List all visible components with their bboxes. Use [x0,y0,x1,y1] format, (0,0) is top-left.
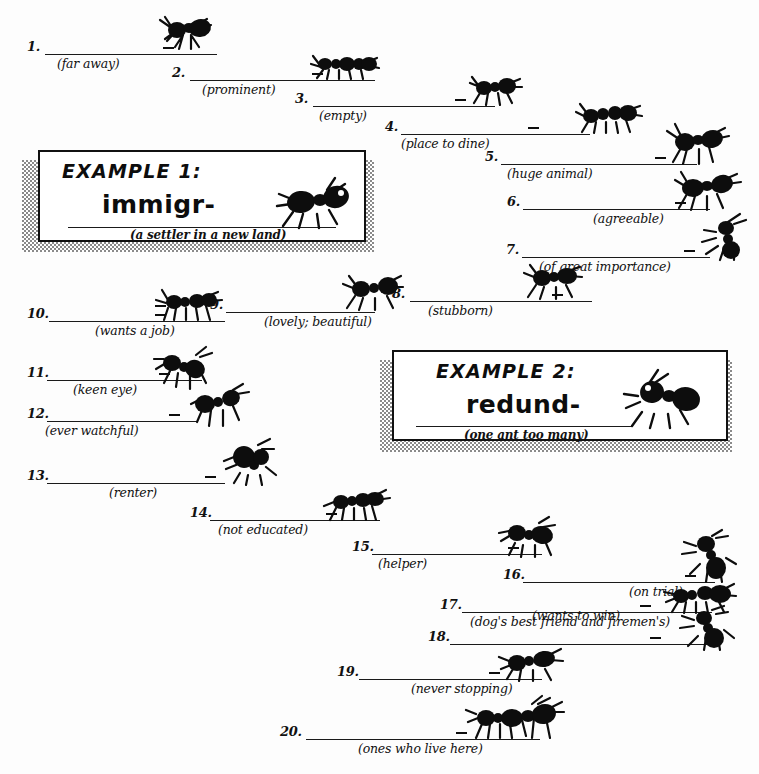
item-number: 6. [507,194,520,209]
answer-blank-line[interactable] [523,582,715,583]
hyphen-mark [159,373,170,375]
answer-blank-line[interactable] [501,164,697,165]
blank-item: 7. (of great importance) [506,240,710,258]
item-clue: (not educated) [218,522,308,537]
item-clue: (empty) [319,108,367,123]
blank-item: 4. (place to dine) [385,117,590,135]
blank-item: 13. (renter) [27,466,225,484]
hyphen-mark [312,73,323,75]
item-clue: (far away) [57,56,119,71]
item-number: 1. [27,39,40,54]
answer-blank-line[interactable] [450,644,716,645]
blank-item: 10. (wants a job) [27,304,225,322]
hyphen-mark [163,47,174,49]
item-number: 10. [27,306,49,321]
hyphen-mark [684,250,695,252]
hyphen-mark [508,547,519,549]
answer-blank-line[interactable] [190,80,375,81]
example-answer-word: redund- [466,390,581,419]
item-number: 5. [485,149,498,164]
answer-blank-line[interactable] [372,554,542,555]
example-title: EXAMPLE 2: [436,360,576,382]
item-clue: (of great importance) [539,259,671,274]
item-number: 12. [27,406,49,421]
item-number: 7. [506,242,519,257]
item-number: 3. [295,91,308,106]
blank-item: 9. (lovely; beautiful) [210,295,375,313]
item-clue: (never stopping) [411,681,512,696]
item-number: 20. [280,724,302,739]
hyphen-mark [455,99,466,101]
ant-icon [220,435,282,487]
answer-blank-line[interactable] [210,520,380,521]
item-clue: (stubborn) [428,303,493,318]
blank-item: 19. (never stopping) [337,662,542,680]
example-clue: (a settler in a new land) [130,228,286,242]
blank-item: 5. (huge animal) [485,147,697,165]
hyphen-mark [528,127,539,129]
hyphen-mark [205,476,216,478]
blank-item: 11. (keen eye) [27,363,202,381]
blank-item: 8. (stubborn) [392,284,592,302]
item-number: 4. [385,119,398,134]
item-number: 2. [172,65,185,80]
answer-blank-line[interactable] [313,106,495,107]
item-clue: (ones who live here) [358,741,483,756]
example-title: EXAMPLE 1: [62,160,202,182]
answer-blank-line[interactable] [47,421,197,422]
blank-item: 18. (wants to win) [428,627,716,645]
item-clue: (wants a job) [95,323,175,338]
hyphen-mark [155,314,166,316]
hyphen-mark [552,294,563,296]
item-clue: (place to dine) [401,136,490,151]
item-clue: (agreeable) [593,211,664,226]
answer-blank-line[interactable] [359,679,542,680]
item-clue: (renter) [109,485,157,500]
hyphen-mark [456,732,467,734]
answer-blank-line[interactable] [306,739,540,740]
item-number: 11. [27,365,49,380]
item-clue: (keen eye) [73,382,137,397]
item-clue: (wants to win) [532,608,620,623]
blank-item: 12. (ever watchful) [27,404,197,422]
hyphen-mark [169,414,180,416]
hyphen-mark [675,202,686,204]
answer-blank-line[interactable] [47,483,225,484]
example-blank-line [416,426,632,427]
hyphen-mark [326,513,337,515]
ant-word-worksheet: 1. (far away) 2. (prominent) [0,0,759,774]
item-clue: (lovely; beautiful) [264,314,372,329]
answer-blank-line[interactable] [45,54,217,55]
item-number: 19. [337,664,359,679]
hyphen-mark [489,672,500,674]
answer-blank-line[interactable] [47,380,202,381]
answer-blank-line[interactable] [226,312,375,313]
item-clue: (ever watchful) [45,423,138,438]
item-number: 15. [352,539,374,554]
answer-blank-line[interactable] [401,134,590,135]
item-clue: (prominent) [202,82,275,97]
item-number: 8. [392,286,405,301]
blank-item: 20. (ones who live here) [280,722,540,740]
item-number: 18. [428,629,450,644]
blank-item: 6. (agreeable) [507,192,710,210]
item-number: 14. [190,505,212,520]
blank-item: 14. (not educated) [190,503,380,521]
blank-item: 3. (empty) [295,89,495,107]
example-clue: (one ant too many) [464,428,588,442]
item-number: 13. [27,468,49,483]
answer-blank-line[interactable] [523,209,710,210]
item-number: 17. [440,597,462,612]
hyphen-mark [655,157,666,159]
hyphen-mark [640,605,651,607]
answer-blank-line[interactable] [410,301,592,302]
example-box-2: EXAMPLE 2: redund- (one ant too many) [392,350,728,441]
item-clue: (helper) [378,556,427,571]
item-clue: (huge animal) [507,166,592,181]
blank-item: 15. (helper) [352,537,542,555]
example-box-1: EXAMPLE 1: immigr- (a settler in a new l… [38,150,366,242]
blank-item: 2. (prominent) [172,63,375,81]
answer-blank-line[interactable] [522,257,710,258]
answer-blank-line[interactable] [49,321,225,322]
hyphen-mark [650,637,661,639]
